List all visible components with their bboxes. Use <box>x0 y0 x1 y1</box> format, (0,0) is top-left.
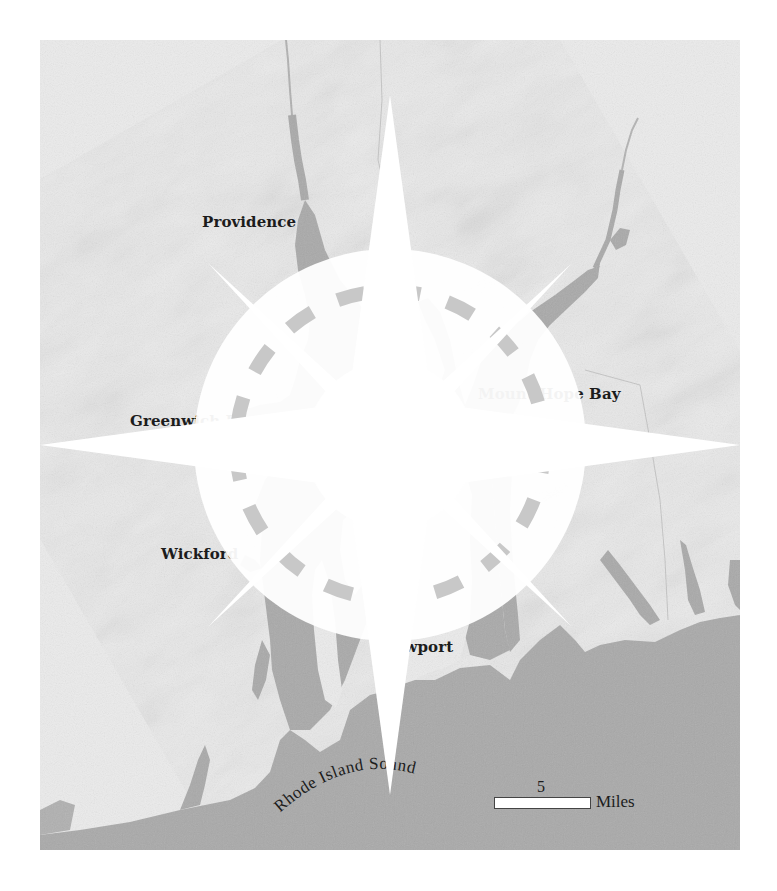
map[interactable]: Providence Greenwich Bay Wickford Mount … <box>40 40 740 850</box>
compass-rose-icon <box>40 40 740 850</box>
